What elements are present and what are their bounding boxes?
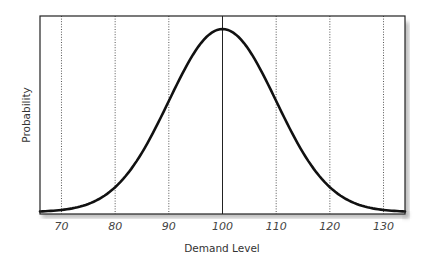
x-tick-label: 100 — [212, 220, 233, 233]
chart: 708090100110120130 Demand Level Probabil… — [0, 0, 432, 266]
x-tick-label: 120 — [319, 220, 340, 233]
x-axis-title: Demand Level — [184, 242, 260, 254]
x-tick-label: 110 — [266, 220, 287, 233]
x-tick-labels: 708090100110120130 — [54, 220, 394, 233]
x-tick-label: 90 — [162, 220, 176, 233]
y-axis-title: Probability — [20, 87, 32, 143]
x-tick-label: 80 — [108, 220, 122, 233]
x-tick-label: 130 — [373, 220, 394, 233]
x-tick-label: 70 — [54, 220, 68, 233]
